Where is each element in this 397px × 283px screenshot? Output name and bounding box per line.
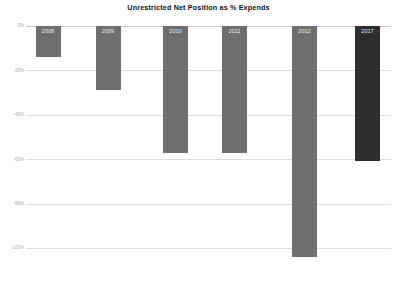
bar[interactable]: 2012 xyxy=(292,26,317,257)
plot-area: 200820092010201120122017 xyxy=(26,26,391,248)
bar[interactable]: 2011 xyxy=(222,26,247,153)
y-axis-tick-label: -20% xyxy=(0,68,24,73)
gridline xyxy=(26,70,391,71)
bar[interactable]: 2017 xyxy=(355,26,380,161)
bar[interactable]: 2009 xyxy=(96,26,121,90)
bar-rect xyxy=(163,26,188,153)
gridline xyxy=(26,204,391,205)
bar[interactable]: 2008 xyxy=(36,26,61,57)
gridline xyxy=(26,248,391,249)
gridline xyxy=(26,159,391,160)
y-axis-tick-label: -60% xyxy=(0,157,24,162)
bar[interactable]: 2010 xyxy=(163,26,188,153)
y-axis-tick-label: -100% xyxy=(0,245,24,250)
bar-rect xyxy=(96,26,121,90)
y-axis-tick-label: -40% xyxy=(0,112,24,117)
gridline xyxy=(26,115,391,116)
bar-rect xyxy=(222,26,247,153)
y-axis-tick-label: -80% xyxy=(0,201,24,206)
bar-rect xyxy=(355,26,380,161)
bar-rect xyxy=(36,26,61,57)
chart-title: Unrestricted Net Position as % Expends xyxy=(0,3,397,12)
chart-container: Unrestricted Net Position as % Expends 0… xyxy=(0,0,397,283)
gridline xyxy=(26,26,391,27)
bar-rect xyxy=(292,26,317,257)
y-axis-tick-label: 0% xyxy=(0,23,24,28)
